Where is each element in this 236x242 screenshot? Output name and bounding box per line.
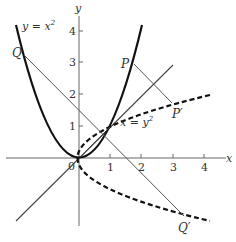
x-axis-label: x	[226, 152, 233, 165]
y-tick-label-1: 1	[69, 120, 76, 133]
y-tick-label-3: 3	[69, 56, 76, 69]
x-tick-label-1: 1	[107, 161, 114, 174]
label-P-prime: P′	[171, 107, 183, 121]
x-tick-label-3: 3	[170, 161, 177, 174]
reflection-diagram: 1 2 3 4 1 2 3 4 x y 0 Q Q′ P P′ y = x2 x…	[0, 0, 236, 242]
x-tick-label-4: 4	[201, 161, 208, 174]
label-Q-prime: Q′	[178, 221, 191, 235]
label-parabola-exp: 2	[50, 19, 56, 27]
label-parabola-base: y = x	[21, 20, 51, 33]
label-inverse-parabola: x = y2	[120, 115, 154, 129]
label-Q: Q	[12, 46, 22, 60]
segment-P-Pprime	[134, 64, 172, 103]
label-inverse-exp: 2	[148, 115, 154, 123]
label-inverse-base: x = y	[120, 116, 149, 129]
segment-Q-Qprime	[24, 55, 184, 216]
x-tick-label-2: 2	[138, 161, 145, 174]
label-parabola: y = x2	[21, 19, 56, 33]
diagram-canvas: 1 2 3 4 1 2 3 4 x y 0 Q Q′ P P′ y = x2 x…	[0, 0, 236, 242]
y-tick-label-4: 4	[69, 25, 76, 38]
chord-origin-to-1-1	[80, 127, 110, 157]
y-axis-label: y	[74, 2, 82, 15]
label-P: P	[120, 57, 130, 71]
y-tick-label-2: 2	[69, 88, 76, 101]
